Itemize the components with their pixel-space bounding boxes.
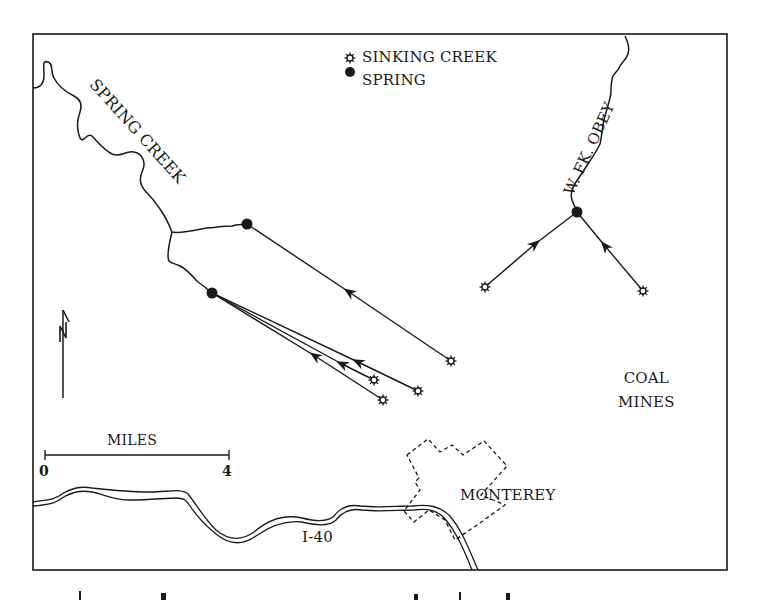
- legend-spring-icon: [345, 67, 355, 77]
- sinking-creek-marker: [413, 386, 424, 397]
- karst-hydrology-map: [0, 0, 763, 600]
- monterey-label: MONTEREY: [460, 486, 555, 504]
- spring-marker: [207, 288, 218, 299]
- cropped-caption-fragments: [79, 591, 510, 600]
- coal-mines-line2: MINES: [618, 390, 675, 414]
- coal-mines-label: COAL MINES: [618, 366, 675, 414]
- spring-marker: [572, 207, 583, 218]
- north-arrow-icon: [60, 310, 69, 398]
- legend-sinking-creek-label: SINKING CREEK: [362, 48, 497, 66]
- sinking-creek-marker: [638, 286, 649, 297]
- sinking-creek-marker: [480, 282, 491, 293]
- sinking-creek-marker: [446, 356, 457, 367]
- scale-end: 4: [222, 463, 232, 479]
- sinking-creek-marker: [369, 375, 380, 386]
- i40-label: I-40: [302, 528, 333, 546]
- i40-highway: [33, 487, 478, 570]
- map-frame: [33, 34, 727, 570]
- scale-bar: [45, 450, 229, 460]
- legend-sinking-creek-icon: [345, 53, 356, 64]
- flow-paths: [212, 212, 643, 400]
- legend-spring-label: SPRING: [362, 71, 426, 89]
- scale-title: MILES: [107, 432, 157, 448]
- scale-start: 0: [39, 463, 49, 479]
- spring-creek-branch: [168, 232, 212, 293]
- spring-marker: [242, 219, 253, 230]
- sinking-creek-marker: [378, 395, 389, 406]
- coal-mines-line1: COAL: [618, 366, 675, 390]
